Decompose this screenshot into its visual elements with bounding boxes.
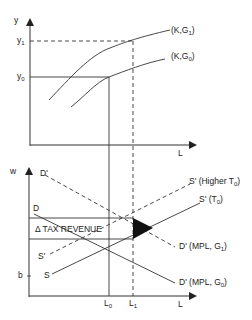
- supply-curve-t0: [52, 203, 200, 274]
- top-x-axis-label: L: [178, 148, 183, 158]
- y0-tick-label: y0: [17, 71, 25, 82]
- tax-revenue-label: Δ TAX REVENUE: [35, 224, 102, 234]
- labor-market-diagram: y L y1 y0 (K,G1) (K,G0) w L b L0 L1: [0, 0, 252, 320]
- d-top-label: D: [33, 203, 39, 213]
- top-panel: y L y1 y0 (K,G1) (K,G0): [14, 15, 195, 158]
- demand-curve-g1: [45, 175, 175, 247]
- d-prime-g0-label: D' (MPL, G0): [179, 277, 227, 288]
- deadweight-triangle: [133, 218, 153, 239]
- curve-label-g0: (K,G0): [171, 51, 195, 62]
- d-prime-g1-label: D' (MPL, G1): [179, 241, 227, 252]
- s-prime-left-label: S': [38, 251, 46, 261]
- y1-tick-label: y1: [17, 35, 25, 46]
- top-y-axis-label: y: [14, 15, 19, 25]
- L0-tick-label: L0: [104, 298, 113, 309]
- s-prime-higher-label: S' (Higher T0): [189, 176, 240, 187]
- bottom-x-axis-label: L: [178, 299, 183, 309]
- s-left-label: S: [44, 270, 50, 280]
- production-curve-g0: [71, 59, 165, 107]
- curve-label-g1: (K,G1): [171, 25, 195, 36]
- L1-tick-label: L1: [129, 298, 138, 309]
- s-prime-t0-label: S' (T0): [199, 194, 223, 205]
- production-curve-g1: [49, 30, 170, 100]
- bottom-y-axis-label: w: [9, 166, 17, 176]
- b-label: b: [18, 270, 23, 280]
- d-prime-top-label: D': [40, 168, 48, 178]
- bottom-panel: w L b L0 L1 Δ TAX REVENUE D' D S' S S' (…: [9, 166, 240, 309]
